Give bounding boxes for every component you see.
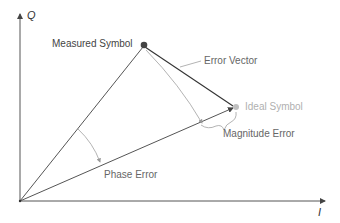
origin-dot [19, 200, 21, 202]
ideal-symbol-dot [233, 104, 239, 110]
measured-symbol-dot [141, 42, 148, 49]
i-axis-label: I [318, 207, 321, 218]
magnitude-arc [146, 50, 202, 123]
magnitude-error-label: Magnitude Error [223, 129, 295, 139]
phase-arc [78, 129, 100, 162]
error-vector-leader [180, 61, 201, 67]
phase-error-label: Phase Error [104, 170, 157, 180]
q-axis-label: Q [27, 10, 36, 21]
ideal-symbol-label: Ideal Symbol [245, 102, 303, 112]
measured-symbol-label: Measured Symbol [52, 39, 133, 49]
error-vector-label: Error Vector [204, 56, 257, 66]
